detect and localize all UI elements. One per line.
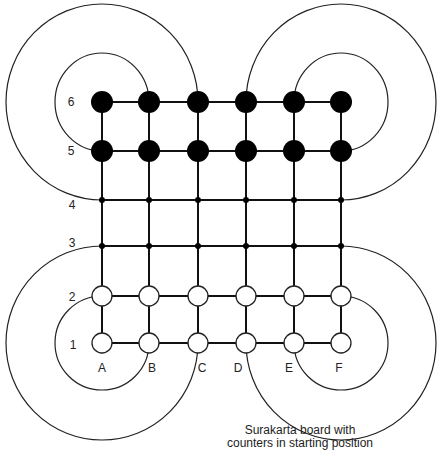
row-label-4: 4: [69, 198, 76, 212]
row-label-1: 1: [70, 338, 77, 352]
grid-lines: [102, 102, 341, 343]
col-label-c: C: [198, 361, 207, 375]
col-label-e: E: [285, 361, 293, 375]
surakarta-board: [0, 0, 438, 456]
figure-caption: Surakarta board with counters in startin…: [0, 424, 438, 450]
col-label-b: B: [148, 361, 156, 375]
row-label-3: 3: [69, 236, 76, 250]
col-label-d: D: [234, 361, 243, 375]
col-label-a: A: [98, 361, 106, 375]
empty-points: [99, 197, 344, 249]
row-label-5: 5: [68, 144, 75, 158]
loop-arcs: [6, 4, 436, 440]
col-label-f: F: [335, 361, 342, 375]
caption-line-2: counters in starting position: [81, 437, 438, 450]
row-label-6: 6: [68, 95, 75, 109]
row-label-2: 2: [69, 290, 76, 304]
